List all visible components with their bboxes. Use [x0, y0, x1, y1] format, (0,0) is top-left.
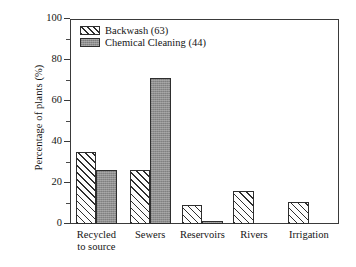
bar: [130, 170, 151, 224]
bar: [202, 221, 223, 224]
bar: [233, 191, 254, 224]
legend-label: Backwash (63): [105, 25, 168, 36]
y-tick-label: 20: [34, 176, 62, 187]
bar: [288, 202, 309, 224]
bar: [76, 152, 97, 224]
legend-label: Chemical Cleaning (44): [105, 37, 206, 48]
x-tick-label: Irrigation: [259, 229, 356, 241]
x-tick-label-line: Irrigation: [259, 229, 356, 241]
chart-legend: Backwash (63)Chemical Cleaning (44): [80, 25, 206, 48]
legend-swatch-icon: [80, 38, 100, 47]
legend-swatch-icon: [80, 26, 100, 35]
y-tick-label: 60: [34, 94, 62, 105]
legend-item: Chemical Cleaning (44): [80, 37, 206, 48]
bar: [182, 205, 203, 224]
bar: [150, 78, 171, 224]
y-axis-title: Percentage of plants (%): [33, 18, 44, 218]
bar: [96, 170, 117, 224]
bars-layer: [70, 19, 339, 224]
y-tick-label: 80: [34, 53, 62, 64]
y-tick-label: 0: [34, 217, 62, 228]
bar-chart-figure: Percentage of plants (%) 020406080100 Re…: [0, 0, 356, 267]
y-tick-label: 100: [34, 12, 62, 23]
x-tick-label-line: to source: [46, 241, 146, 253]
legend-item: Backwash (63): [80, 25, 206, 36]
y-tick-label: 40: [34, 135, 62, 146]
